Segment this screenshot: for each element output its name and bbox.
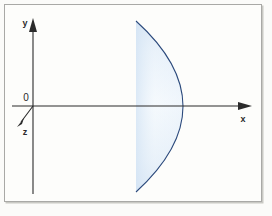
- arrow-up-icon: [29, 18, 37, 32]
- caption-text: [6, 206, 258, 214]
- figure-root: x y z 0: [0, 0, 272, 216]
- z-axis-group: z: [17, 106, 33, 137]
- origin-label: 0: [23, 92, 29, 103]
- x-axis-label: x: [240, 114, 245, 124]
- y-axis-label: y: [22, 18, 27, 28]
- arrow-right-icon: [238, 102, 252, 110]
- coordinate-diagram: x y z 0: [0, 0, 272, 216]
- x-axis-group: x: [12, 102, 252, 124]
- z-axis-label: z: [23, 127, 28, 137]
